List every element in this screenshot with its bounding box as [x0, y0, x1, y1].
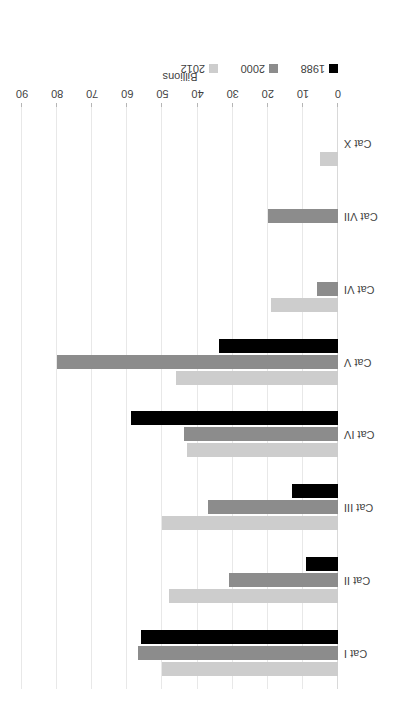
bar-cat-ii-2012: [169, 589, 338, 603]
category-label-cat-ii: Cat II: [344, 575, 408, 587]
bar-group-cat-x: [22, 120, 338, 166]
bar-cat-vi-2000: [317, 282, 338, 296]
tick-mark-40: [197, 103, 198, 107]
tick-mark-30: [232, 103, 233, 107]
tick-mark-10: [302, 103, 303, 107]
bar-cat-iii-2000: [208, 500, 338, 514]
legend-swatch-1988: [329, 65, 338, 74]
tick-label-90: 90: [7, 88, 37, 100]
category-label-cat-iv: Cat IV: [344, 429, 408, 441]
bar-cat-i-2000: [138, 646, 338, 660]
tick-mark-80: [56, 103, 57, 107]
bar-group-cat-ii: [22, 557, 338, 603]
category-label-cat-i: Cat I: [344, 648, 408, 660]
bar-group-cat-vii: [22, 193, 338, 239]
rotated-figure-wrapper: Billions 0102030405060708090 Cat ICat II…: [0, 0, 409, 711]
bar-group-cat-v: [22, 339, 338, 385]
bar-cat-ii-2000: [229, 573, 338, 587]
bar-group-cat-iii: [22, 484, 338, 530]
tick-label-80: 80: [42, 88, 72, 100]
bar-group-cat-i: [22, 630, 338, 676]
bar-group-cat-vi: [22, 266, 338, 312]
tick-label-50: 50: [147, 88, 177, 100]
bar-cat-v-2000: [57, 355, 338, 369]
tick-label-0: 0: [323, 88, 353, 100]
tick-label-70: 70: [77, 88, 107, 100]
bar-cat-iii-2012: [162, 516, 338, 530]
category-label-cat-vi: Cat VI: [344, 284, 408, 296]
bar-cat-iv-2012: [187, 443, 338, 457]
tick-mark-90: [21, 103, 22, 107]
tick-mark-60: [126, 103, 127, 107]
bar-cat-vii-2000: [268, 209, 338, 223]
bar-cat-i-2012: [162, 662, 338, 676]
category-label-cat-vii: Cat VII: [344, 211, 408, 223]
legend-item-2012[interactable]: 2012: [181, 63, 218, 75]
tick-mark-20: [267, 103, 268, 107]
legend-label-2012: 2012: [181, 63, 205, 75]
bar-cat-i-1988: [141, 630, 338, 644]
tick-mark-70: [91, 103, 92, 107]
bar-cat-iii-1988: [292, 484, 338, 498]
tick-label-10: 10: [288, 88, 318, 100]
plot-area: [22, 107, 338, 689]
legend-label-1988: 1988: [301, 63, 325, 75]
chart-legend: 198820002012: [22, 55, 338, 75]
category-label-cat-v: Cat V: [344, 357, 408, 369]
legend-swatch-2000: [269, 65, 278, 74]
bar-cat-vi-2012: [271, 298, 338, 312]
bar-cat-x-2012: [320, 152, 338, 166]
bar-cat-v-1988: [219, 339, 338, 353]
bar-cat-iv-1988: [131, 411, 338, 425]
tick-label-20: 20: [253, 88, 283, 100]
bar-cat-iv-2000: [184, 427, 338, 441]
bar-group-cat-iv: [22, 411, 338, 457]
legend-label-2000: 2000: [241, 63, 265, 75]
tick-mark-50: [161, 103, 162, 107]
legend-swatch-2012: [209, 65, 218, 74]
tick-label-40: 40: [183, 88, 213, 100]
bar-chart-figure: Billions 0102030405060708090 Cat ICat II…: [0, 0, 409, 711]
bar-cat-ii-1988: [306, 557, 338, 571]
category-label-cat-iii: Cat III: [344, 502, 408, 514]
category-label-cat-x: Cat X: [344, 138, 408, 150]
tick-mark-0: [337, 103, 338, 107]
legend-item-1988[interactable]: 1988: [301, 63, 338, 75]
tick-label-30: 30: [218, 88, 248, 100]
tick-label-60: 60: [112, 88, 142, 100]
bar-cat-v-2012: [177, 371, 339, 385]
legend-item-2000[interactable]: 2000: [241, 63, 278, 75]
